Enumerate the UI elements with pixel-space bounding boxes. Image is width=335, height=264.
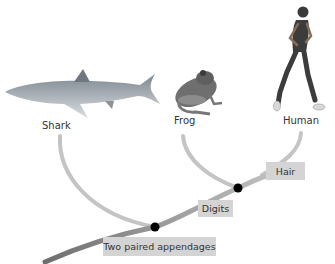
node-shark-split — [151, 223, 160, 232]
taxon-label-shark: Shark — [42, 120, 71, 131]
taxon-label-frog: Frog — [174, 115, 195, 126]
shark-branch — [60, 136, 155, 227]
character-label-digits: Digits — [198, 200, 233, 217]
character-label-two-paired-appendages: Two paired appendages — [103, 237, 216, 256]
frog-branch — [183, 136, 238, 188]
character-label-hair: Hair — [266, 162, 305, 180]
shark-icon — [5, 69, 160, 118]
taxon-label-human: Human — [283, 115, 319, 126]
cladogram — [0, 0, 335, 264]
node-frog-split — [234, 184, 243, 193]
frog-icon — [171, 70, 222, 114]
human-runner-icon — [274, 7, 326, 112]
